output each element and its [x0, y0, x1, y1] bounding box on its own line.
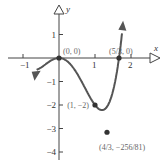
x-axis-arrow-icon — [150, 53, 160, 63]
function-curve — [37, 33, 122, 110]
point-label: (5/3, 0) — [109, 47, 133, 56]
y-axis-arrow-icon — [54, 5, 64, 14]
function-graph: x y −1121−1−2−3−4 (0, 0)(5/3, 0)(1, −2)(… — [0, 0, 168, 166]
y-tick-label: −2 — [46, 100, 56, 110]
y-tick-label: −4 — [46, 147, 56, 157]
point-marker — [92, 102, 97, 107]
point-marker — [104, 130, 109, 135]
y-tick-label: −1 — [46, 77, 56, 87]
graph-canvas: x y −1121−1−2−3−4 (0, 0)(5/3, 0)(1, −2)(… — [0, 0, 168, 166]
y-tick-label: −3 — [46, 124, 56, 134]
point-label: (4/3, −256/81) — [99, 143, 146, 152]
point-marker — [116, 55, 121, 60]
point-marker — [56, 55, 61, 60]
point-label: (0, 0) — [63, 47, 81, 56]
x-tick-label: 1 — [92, 60, 97, 70]
x-tick-label: −1 — [20, 60, 30, 70]
curve-right-arrow-icon — [118, 21, 126, 31]
y-axis-label: y — [65, 4, 70, 14]
curve-left-arrow-icon — [32, 71, 41, 81]
x-tick-label: 2 — [128, 60, 133, 70]
y-tick-label: 1 — [52, 30, 57, 40]
point-label: (1, −2) — [67, 101, 89, 110]
x-axis-label: x — [153, 43, 158, 53]
